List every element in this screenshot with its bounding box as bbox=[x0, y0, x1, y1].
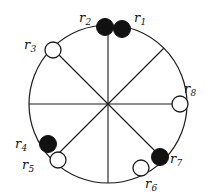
node-label-r4: r4 bbox=[15, 137, 27, 153]
node-r5-open bbox=[50, 152, 66, 168]
node-label-subscript: 6 bbox=[151, 183, 157, 193]
node-label-subscript: 2 bbox=[85, 17, 91, 27]
node-r4-filled bbox=[40, 136, 57, 153]
node-label-r6: r6 bbox=[145, 177, 157, 193]
node-label-subscript: 1 bbox=[140, 17, 146, 27]
node-label-r3: r3 bbox=[24, 38, 36, 54]
node-label-subscript: 5 bbox=[28, 164, 34, 174]
node-label-subscript: 8 bbox=[190, 88, 196, 98]
node-label-r2: r2 bbox=[79, 11, 91, 27]
nodes-group bbox=[40, 19, 189, 177]
node-label-subscript: 4 bbox=[21, 143, 27, 153]
node-r6-open bbox=[133, 160, 149, 176]
node-label-subscript: 3 bbox=[30, 44, 36, 54]
node-r1-filled bbox=[114, 21, 131, 38]
node-label-r5: r5 bbox=[22, 158, 34, 174]
node-label-r7: r7 bbox=[170, 152, 182, 168]
node-label-r1: r1 bbox=[134, 11, 146, 27]
node-r2-filled bbox=[97, 19, 114, 36]
node-label-subscript: 7 bbox=[176, 158, 182, 168]
node-label-r8: r8 bbox=[184, 82, 196, 98]
node-r7-filled bbox=[152, 149, 169, 166]
node-r3-open bbox=[45, 42, 61, 58]
node-r8-open bbox=[172, 96, 188, 112]
circle-diagram-figure: r1r2r3r4r5r6r7r8 bbox=[0, 0, 215, 195]
